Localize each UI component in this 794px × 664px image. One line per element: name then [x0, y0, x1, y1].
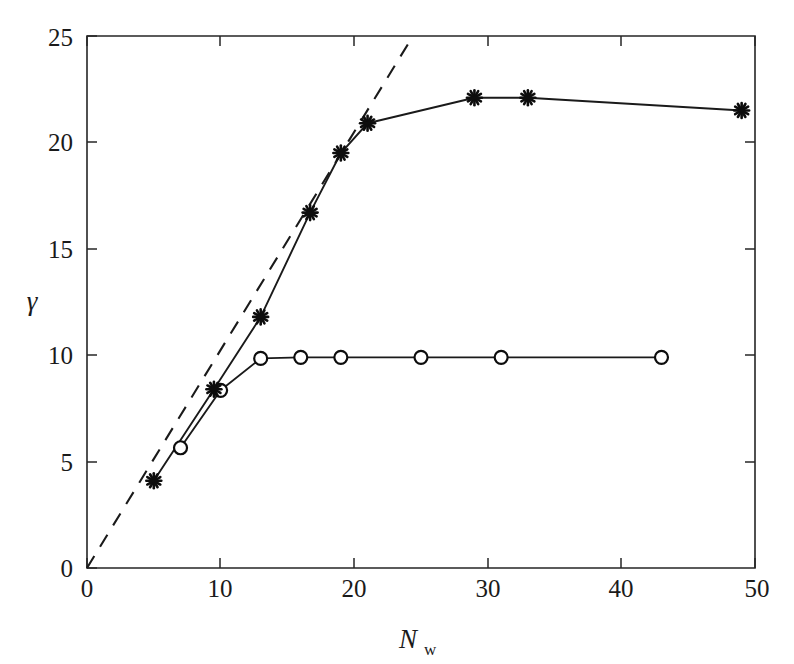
y-axis-ticks: [87, 36, 755, 568]
data-point-circle: [415, 351, 428, 364]
data-point-circle: [334, 351, 347, 364]
x-axis-title-subscript: w: [424, 640, 437, 659]
figure-container: 0 10 20 30 40 50 0 5 10 15 20 25 γ N w: [0, 0, 794, 664]
data-point-asterisk: [467, 90, 482, 105]
chart-canvas: 0 10 20 30 40 50 0 5 10 15 20 25 γ N w: [0, 0, 794, 664]
data-point-circle: [495, 351, 508, 364]
axis-frame: [87, 36, 755, 568]
y-tick-label-2: 10: [48, 342, 73, 369]
asterisk-series-line: [154, 98, 742, 481]
data-point-circle: [254, 352, 267, 365]
y-tick-label-0: 0: [61, 555, 74, 582]
circle-series-line: [181, 357, 662, 447]
x-tick-label-3: 30: [476, 575, 501, 602]
data-point-asterisk: [520, 90, 535, 105]
y-axis-title: γ: [27, 286, 39, 316]
data-point-circle: [655, 351, 668, 364]
y-axis-tick-labels: 0 5 10 15 20 25: [48, 24, 73, 582]
data-point-circle: [174, 441, 187, 454]
y-tick-label-5: 25: [48, 24, 73, 51]
y-tick-label-4: 20: [48, 129, 73, 156]
x-axis-title: N w: [398, 624, 437, 659]
x-axis-ticks: [87, 36, 755, 568]
y-axis-title-text: γ: [27, 286, 39, 316]
x-axis-tick-labels: 0 10 20 30 40 50: [81, 575, 770, 602]
data-point-asterisk: [146, 473, 161, 488]
circle-series-markers: [174, 351, 668, 454]
data-point-asterisk: [253, 309, 268, 324]
x-tick-label-5: 50: [745, 575, 770, 602]
data-point-asterisk: [734, 103, 749, 118]
x-tick-label-1: 10: [208, 575, 233, 602]
x-tick-label-2: 20: [342, 575, 367, 602]
x-axis-title-text: N: [398, 624, 419, 654]
asterisk-series-markers: [146, 90, 749, 488]
data-point-asterisk: [303, 205, 318, 220]
data-point-circle: [294, 351, 307, 364]
x-tick-label-4: 40: [609, 575, 634, 602]
y-tick-label-1: 5: [61, 449, 74, 476]
x-tick-label-0: 0: [81, 575, 94, 602]
y-tick-label-3: 15: [48, 236, 73, 263]
